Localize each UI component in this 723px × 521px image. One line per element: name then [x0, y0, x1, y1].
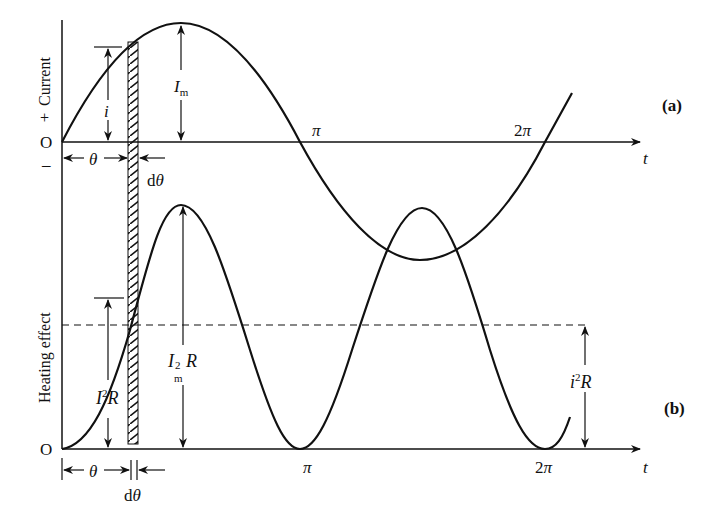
x-axis-label-a: t	[643, 150, 648, 167]
heating-axis-label: Heating effect	[37, 312, 53, 403]
label-dtheta-b: dθ	[124, 487, 141, 504]
panel-tag-a: (a)	[662, 97, 682, 114]
tick-2pi-a: 2π	[514, 122, 531, 139]
current-axis-label: Current	[37, 57, 53, 106]
panel-tag-b: (b)	[664, 400, 685, 417]
label-I2R: I2R	[96, 388, 119, 407]
tick-pi-a: π	[312, 122, 321, 139]
plus-sign: +	[40, 110, 49, 126]
label-i: i	[104, 103, 109, 120]
minus-sign: –	[42, 156, 51, 173]
label-dtheta-a: dθ	[147, 172, 164, 189]
waveform-diagram	[0, 0, 723, 521]
dtheta-strip	[128, 42, 138, 444]
origin-b: O	[40, 441, 52, 458]
tick-pi-b: π	[303, 459, 312, 476]
label-theta-b: θ	[89, 463, 97, 480]
label-Im: Im	[174, 78, 188, 98]
label-Im2R: I2mR	[168, 352, 197, 370]
x-axis-label-b: t	[643, 459, 648, 476]
label-i2R: i2R	[570, 372, 592, 391]
tick-2pi-b: 2π	[535, 459, 552, 476]
label-theta-a: θ	[89, 151, 97, 168]
origin-a: O	[40, 134, 52, 151]
